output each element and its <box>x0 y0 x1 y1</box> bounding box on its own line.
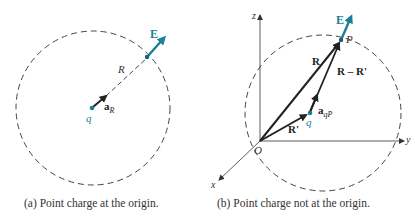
label-R-a: R <box>118 64 125 75</box>
label-vector-Rprime: R' <box>288 124 299 135</box>
label-origin-O: O <box>254 145 262 156</box>
label-E-b: E <box>336 14 344 26</box>
panel-a <box>16 31 170 185</box>
vector-R-arrow <box>260 43 339 141</box>
label-y-axis: y <box>406 135 410 145</box>
field-point-a <box>145 55 149 59</box>
label-aR: aR <box>104 101 114 115</box>
label-P: P <box>346 34 353 45</box>
radius-line-a <box>106 57 148 96</box>
label-q-b: q <box>306 117 312 128</box>
label-x-axis: x <box>211 180 215 190</box>
label-E-a: E <box>150 28 158 40</box>
label-vector-R: R <box>312 56 320 67</box>
vector-Rprime-arrow <box>260 115 306 141</box>
caption-panel-a: (a) Point charge at the origin. <box>24 197 159 209</box>
label-q-a: q <box>86 113 92 124</box>
point-P <box>339 38 343 42</box>
panel-b <box>219 15 404 191</box>
label-vector-R-minus-Rprime: R – R' <box>337 66 367 77</box>
charge-q-a <box>90 106 95 111</box>
label-aqP: aqP <box>318 105 332 119</box>
charge-q-b <box>308 111 313 116</box>
caption-panel-b: (b) Point charge not at the origin. <box>217 197 370 209</box>
unit-vector-aqP-arrow <box>310 95 317 112</box>
label-z-axis: z <box>252 11 256 21</box>
